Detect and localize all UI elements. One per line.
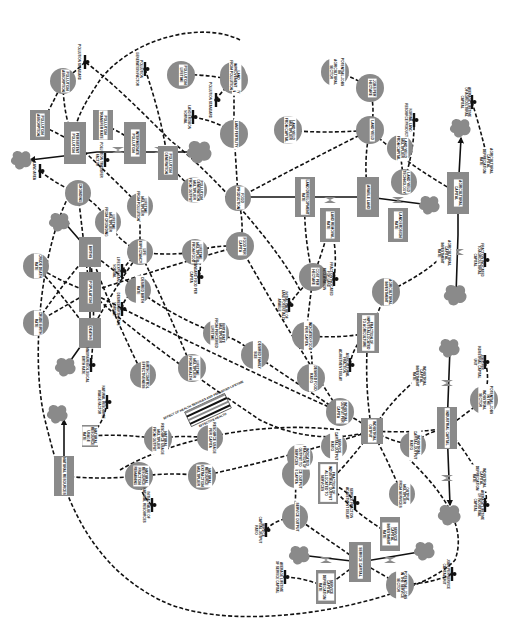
level-natural-resource-usage-rate: NATURALRESOURCEUSAGERATE: [82, 425, 98, 447]
svg-text:CAPITAL: CAPITAL: [473, 253, 477, 266]
svg-text:MULTIPLIER: MULTIPLIER: [196, 466, 200, 486]
svg-text:SERVICE OUTPUT: SERVICE OUTPUT: [295, 503, 299, 532]
svg-text:BIRTHS: BIRTHS: [88, 246, 92, 259]
svg-text:ARABLE: ARABLE: [277, 299, 281, 312]
svg-text:RATE: RATE: [34, 262, 38, 272]
const-maximum-biological-birth-rate: MAXIMUM BIOLOGICALBIRTH RATE: [81, 347, 96, 383]
const-natural-resource-usage-factor: NATURAL RESOURCEUSAGE FACTOR: [97, 385, 112, 418]
svg-text:RATE: RATE: [479, 157, 483, 167]
svg-text:FACTOR: FACTOR: [95, 154, 99, 167]
svg-text:POLLUTION: POLLUTION: [131, 133, 135, 153]
svg-text:RATE: RATE: [301, 193, 305, 203]
aux-crude-birth-rate: CRUDE BIRTHRATE: [23, 310, 49, 336]
const-pollution-standard-2: POLLUTION STANDARD: [208, 82, 221, 119]
svg-text:NATURAL RESOURCES: NATURAL RESOURCES: [62, 457, 66, 495]
svg-text:TECHNOLOGY: TECHNOLOGY: [402, 170, 406, 194]
aux-desired-food-ratio: DESIRED FOODRATIO: [297, 364, 325, 392]
svg-text:CAPITAL UNIT: CAPITAL UNIT: [442, 563, 446, 584]
svg-text:NORMAL: NORMAL: [183, 110, 187, 124]
valve: [441, 380, 453, 386]
svg-text:RATE: RATE: [318, 583, 322, 593]
level-industrial-capital-investment-rate: INDUSTRIALCAPITALINVESTMENTRATE: [412, 365, 432, 388]
svg-text:RECLAMATION: RECLAMATION: [322, 268, 326, 291]
svg-text:EXPECTANCY: EXPECTANCY: [138, 241, 142, 264]
aux-potential-jobs-agricultural-sector: POTENTIAL JOBSINAGRICULTURALSECTOR: [321, 56, 349, 87]
level-agricultural-capital-depreciation-rate: AGRICULTURALCAPITALDEPRECIATIONRATE: [479, 147, 499, 174]
level-pollution-generation: POLLUTIONGENERATION: [158, 146, 178, 180]
svg-text:CAPITA: CAPITA: [336, 406, 340, 419]
svg-text:PER CAPITA: PER CAPITA: [208, 428, 212, 448]
aux-output-multiplier-from-services: OUTPUTMULTIPLIERFROM SERVICES: [389, 479, 415, 508]
svg-text:SERVICES: SERVICES: [320, 475, 324, 492]
aux-land-yield-multiplier-from-capital: LAND YIELDMULTIPLIERFROM CAPITAL: [274, 116, 302, 144]
aux-service-output: SERVICE OUTPUT: [282, 501, 308, 532]
level-arable-land: ARABLE LAND: [357, 177, 379, 217]
aux-pollution-lifetime: POLLUTIONLIFETIME: [167, 61, 195, 89]
const-land-erosion-normal: LAND EROSIONNORMAL: [183, 105, 198, 129]
aux-land-yield-technology: LAND YIELDTECHNOLOGY: [391, 169, 417, 195]
aux-lifetime-multiplier-from-pollution: LIFETIMEMULTIPLIERFROM POLLUTION: [127, 190, 153, 221]
const-normal-land-resource-product: NORMAL LANDRESOURCE PRODUCT: [404, 103, 419, 137]
svg-text:RATIO: RATIO: [409, 440, 413, 450]
aux-indicated-food-per-capita: INDICATED FOODPER CAPITA: [292, 320, 320, 351]
aux-crude-death-rate: CRUDE DEATHRATE: [23, 253, 49, 279]
valve: [324, 197, 336, 203]
aux-crowding: CROWDING: [65, 180, 91, 206]
svg-text:LIFETIME: LIFETIME: [179, 67, 183, 83]
aux-industrial-capital-output-ratio-2: SERVICECAPITAL-OUTPUTRATIO: [321, 430, 347, 461]
const-pollution-generation-factor: POLLUTIONGENERATION FACTOR: [135, 52, 150, 87]
svg-text:TO AGRICULTURE: TO AGRICULTURE: [362, 318, 366, 348]
level-service-capital-depreciation-rate: SERVICECAPITALDEPRECIATIONRATE: [316, 570, 336, 604]
svg-text:FROM SERVICES: FROM SERVICES: [398, 480, 402, 508]
aux-lifetime-multiplier-from-health: LIFETIMEMULTIPLIERFROM HEALTH: [178, 354, 206, 382]
const-jobs-per-industrial-capital-unit: JOBS PERINDUSTRIAL CAPITALUNIT: [473, 346, 489, 379]
aux-life-expectancy: LIFEEXPECTANCY: [127, 239, 153, 265]
const-fraction-inputs-to-agricultural-capital: FRACTION INDICATEDTO AGRICULTURALCAPITAL: [473, 243, 489, 277]
level-land-erosion-rate: LAND EROSIONRATE: [388, 208, 408, 242]
aux-natural-resource-usage-multiplier: NATURALRESOURCE USAGEMULTIPLIERFROM OUTP…: [144, 423, 172, 455]
level-population: POPULATION: [79, 272, 101, 312]
svg-text:FROM POLLUTION: FROM POLLUTION: [136, 191, 140, 221]
level-births: BIRTHS: [79, 237, 101, 267]
svg-text:RATIO: RATIO: [309, 373, 313, 383]
const-initial-value-natural-resources: INITIAL VALUE OFNATURAL RESOURCES: [142, 487, 157, 522]
const-agricultural-fraction-adjustment-delay: AGRICULTURALFRACTIONADJUSTMENT DELAY: [338, 349, 354, 382]
valve: [112, 147, 124, 153]
svg-text:CAPITA: CAPITA: [238, 240, 242, 253]
svg-text:POLLUTION: POLLUTION: [71, 133, 75, 153]
level-service-capital: SERVICE CAPITAL: [349, 542, 371, 582]
level-fraction-of-inputs-allocated-to-agriculture: FRACTION OFINPUTS ALLOCATEDTO AGRICULTUR…: [357, 313, 379, 353]
aux-birth-rate-multiplier-from-perceived-lifetime: BIRTH RATEMULTIPLIERFROM PERCEIVEDLIFETI…: [203, 317, 229, 348]
const-service-capital-output-ratio: SERVICECAPITAL-OUTPUTRATIO: [254, 517, 270, 544]
const-life-expectancy-normal: LIFE EXPECTANCYNORMAL: [112, 257, 127, 286]
svg-text:LAND YIELD: LAND YIELD: [370, 120, 374, 140]
cloud-pollution-sink: [11, 151, 32, 170]
aux-jobs-per-hectare: JOBS PERHECTARE: [356, 74, 384, 102]
aux-industrial-output-per-capita: INDUSTRIALOUTPUT PERCAPITA: [326, 398, 354, 426]
svg-text:FROM POLLUTION: FROM POLLUTION: [229, 60, 233, 90]
svg-text:TRANSFER RATE: TRANSFER RATE: [99, 111, 103, 139]
svg-text:RESOURCE PRODUCT: RESOURCE PRODUCT: [404, 103, 408, 137]
svg-text:ADJUSTMENT DELAY: ADJUSTMENT DELAY: [345, 487, 349, 520]
svg-text:SERVICES: SERVICES: [294, 449, 298, 466]
aux-lifetime-multiplier-from-crowding: LIFETIMEMULTIPLIERFROM CROWDING: [95, 207, 121, 237]
cloud-deaths: [55, 358, 76, 377]
cloud-agcap-investment: [444, 285, 467, 305]
cloud-agcap-depreciation: [450, 119, 471, 138]
aux-land-fertility: LAND FERTILITY: [220, 118, 248, 149]
svg-text:FROM HEALTH: FROM HEALTH: [188, 356, 192, 380]
svg-text:RATE: RATE: [472, 474, 476, 484]
level-pollution-absorption: POLLUTIONABSORPTION: [30, 110, 50, 140]
svg-text:RATE: RATE: [82, 432, 86, 442]
svg-text:RATE: RATE: [326, 221, 330, 231]
svg-text:SIZE: SIZE: [253, 351, 257, 359]
svg-text:FROM CROWDING: FROM CROWDING: [104, 207, 108, 237]
aux-natural-resource-fraction-remaining: NATURALRESOURCEFRACTIONREMAINING: [125, 462, 153, 490]
aux-desired-family-size: DESIRED FAMILYSIZE: [241, 339, 269, 370]
svg-text:ABSORPTION: ABSORPTION: [36, 114, 40, 137]
svg-text:NORMAL: NORMAL: [112, 264, 116, 278]
svg-text:HECTARE: HECTARE: [311, 269, 315, 285]
aux-potential-jobs-industrial-sector: POTENTIAL JOBSIN THEINDUSTRIALSECTOR: [470, 384, 498, 415]
const-service-fraction-adjustment-delay: SERVICE FRACTIONADJUSTMENT DELAY: [345, 487, 360, 520]
svg-text:SECTOR: SECTOR: [329, 65, 333, 79]
